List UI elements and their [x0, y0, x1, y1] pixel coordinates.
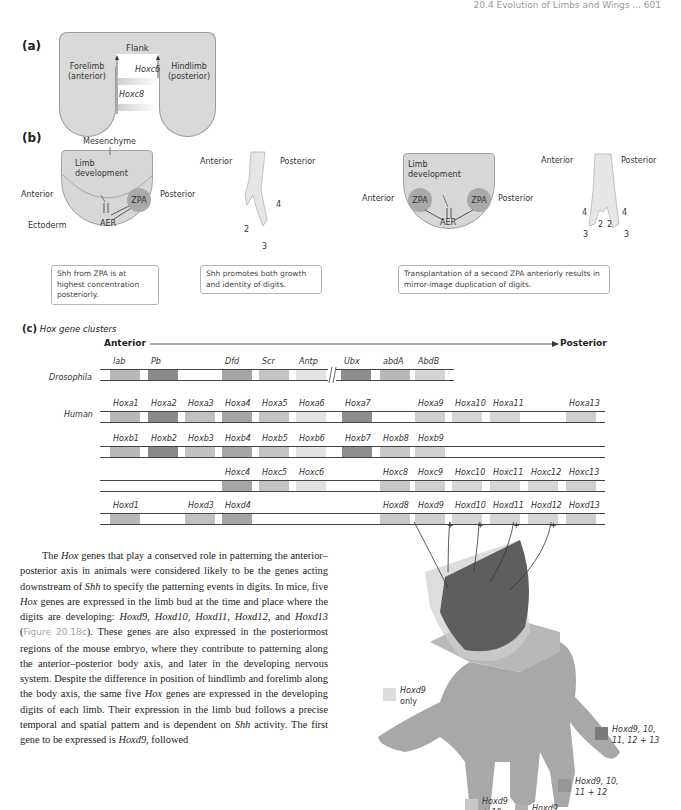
gene-block-dfd: [222, 370, 252, 380]
caption-zpa-transplant: Transplantation of a second ZPA anterior…: [398, 265, 610, 294]
gene-block-abdb: [415, 370, 445, 380]
italic-term: Hox: [20, 596, 37, 607]
gene-block-pb: [148, 370, 178, 380]
gene-label-hoxa6: Hoxa6: [299, 399, 325, 408]
digit-label-4: 4: [276, 200, 281, 209]
legend-label-line1: Hoxd9, 10,: [612, 724, 659, 735]
gene-block-hoxa4: [222, 412, 252, 422]
svg-text:+: +: [447, 522, 454, 530]
drosophila-label: Drosophila: [49, 373, 92, 382]
gene-block-hoxa13: [566, 412, 596, 422]
gene-label-hoxa2: Hoxa2: [151, 399, 177, 408]
hoxc8-gradient: [118, 104, 156, 111]
hoxc6-gradient: [118, 78, 159, 85]
gene-label-hoxd10: Hoxd10: [455, 501, 486, 510]
gene-block-hoxa9: [415, 412, 445, 422]
dup-anterior-label: Anterior: [362, 194, 394, 203]
gene-label-hoxc11: Hoxc11: [493, 468, 523, 477]
legend-label: Hoxd9 + 10: [482, 796, 508, 810]
forelimb-label-line1: Forelimb: [68, 62, 106, 72]
gene-block-hoxd3: [185, 514, 215, 524]
gene-block-hoxa6: [296, 412, 326, 422]
gene-block-antp: [296, 370, 326, 380]
gene-block-hoxa3: [185, 412, 215, 422]
gene-label-hoxb7: Hoxb7: [345, 434, 371, 443]
panel-c-label: (c): [22, 323, 37, 334]
digits-posterior-label: Posterior: [280, 157, 315, 166]
legend-label: Hoxd9,: [532, 803, 560, 810]
figure-reference-link[interactable]: Figure 20.18c: [23, 627, 86, 637]
gene-block-hoxc6: [296, 481, 326, 491]
gene-block-hoxa2: [148, 412, 178, 422]
limb-bud-overlay: [61, 145, 161, 230]
digit-skeleton-duplicated: [585, 152, 625, 232]
gene-block-hoxa10: [452, 412, 482, 422]
body-text: The Hox genes that play a conserved role…: [20, 548, 328, 747]
hindlimb-label-line1: Hindlimb: [168, 62, 210, 72]
gene-label-hoxd11: Hoxd11: [493, 501, 524, 510]
gene-block-hoxb7: [342, 447, 372, 457]
gene-label-hoxb8: Hoxb8: [383, 434, 409, 443]
gene-label-hoxb2: Hoxb2: [151, 434, 177, 443]
gene-label-hoxb9: Hoxb9: [418, 434, 444, 443]
svg-text:+: +: [477, 522, 484, 530]
gene-block-hoxd1: [110, 514, 140, 524]
legend-label: Hoxd9 only: [400, 685, 426, 707]
dup-digits-posterior-label: Posterior: [621, 156, 656, 165]
gene-block-hoxc12: [528, 481, 558, 491]
italic-term: Hox: [61, 550, 78, 561]
gene-label-hoxc12: Hoxc12: [531, 468, 561, 477]
gene-label-hoxa9: Hoxa9: [418, 399, 444, 408]
legend-swatch: [558, 779, 571, 792]
hoxc8-label: Hoxc8: [119, 90, 144, 99]
dup-aer-label: AER: [440, 218, 456, 227]
gene-block-hoxd4: [222, 514, 252, 524]
flank-label: Flank: [126, 43, 149, 53]
gene-label-hoxa3: Hoxa3: [188, 399, 214, 408]
gene-block-hoxc13: [566, 481, 596, 491]
gene-block-hoxa1: [110, 412, 140, 422]
gene-label-dfd: Dfd: [225, 357, 239, 366]
limb-development-line1: Limb: [75, 159, 128, 169]
human-label: Human: [64, 410, 93, 419]
dup-limb-development-label: Limb development: [408, 160, 461, 180]
panel-c-heading: (c) Hox gene clusters: [22, 323, 116, 334]
gene-label-hoxa10: Hoxa10: [455, 399, 486, 408]
gene-block-hoxc9: [415, 481, 445, 491]
dup-digit-label-4a: 4: [582, 208, 587, 217]
gene-label-pb: Pb: [151, 357, 161, 366]
dup-digit-label-2a: 2: [598, 220, 603, 229]
gene-label-abdb: AbdB: [418, 357, 439, 366]
italic-term: Shh: [235, 719, 251, 730]
forelimb-label: Forelimb (anterior): [68, 62, 106, 82]
anterior-label: Anterior: [21, 190, 53, 199]
panel-b-label: (b): [22, 131, 42, 145]
gene-block-hoxc4: [222, 481, 252, 491]
gene-label-hoxa4: Hoxa4: [225, 399, 251, 408]
hoxc6-label: Hoxc6: [135, 65, 160, 74]
gene-label-ubx: Ubx: [344, 357, 360, 366]
dup-digit-label-3b: 3: [624, 230, 629, 239]
gene-block-hoxc5: [259, 481, 289, 491]
gene-label-hoxb4: Hoxb4: [225, 434, 251, 443]
legend-label-line2: 11 + 12: [575, 787, 619, 798]
gene-label-hoxb1: Hoxb1: [113, 434, 139, 443]
gene-block-abda: [380, 370, 410, 380]
legend-swatch: [595, 727, 608, 740]
legend-label-line1: Hoxd9, 10,: [575, 776, 619, 787]
gene-block-hoxa11: [490, 412, 520, 422]
dup-limb-development-line1: Limb: [408, 160, 461, 170]
digits-anterior-label: Anterior: [200, 157, 232, 166]
gene-label-hoxd13: Hoxd13: [569, 501, 600, 510]
anterior-posterior-axis-arrow: [150, 340, 560, 350]
hand-expression-illustration: + + + +: [370, 522, 681, 810]
zpa-circle: ZPA: [127, 188, 151, 212]
gene-label-hoxd1: Hoxd1: [113, 501, 139, 510]
axis-posterior-label: Posterior: [560, 338, 607, 348]
aer-label: AER: [100, 219, 116, 228]
gene-label-scr: Scr: [262, 357, 275, 366]
gene-label-hoxc4: Hoxc4: [225, 468, 250, 477]
digit-label-2: 2: [244, 225, 249, 234]
gene-block-hoxb6: [296, 447, 326, 457]
caption-shh-gradient: Shh from ZPA is at highest concentration…: [51, 265, 159, 305]
